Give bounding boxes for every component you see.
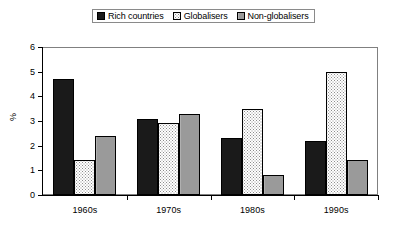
y-tick-label: 5 (30, 67, 35, 76)
bar-non-globalisers-1970s (179, 114, 200, 195)
chart-legend: Rich countries Globalisers Non-globalise… (92, 9, 315, 23)
bar-chart: Rich countries Globalisers Non-globalise… (0, 0, 397, 237)
legend-label-rich-countries: Rich countries (108, 12, 164, 21)
bar-group-1980s (211, 47, 295, 195)
bar-rich-countries-1970s (137, 119, 158, 195)
y-tick-label: 6 (30, 43, 35, 52)
y-axis-ticks: 6543210 (0, 0, 42, 237)
bar-globalisers-1980s (242, 109, 263, 195)
legend-item-non-globalisers: Non-globalisers (237, 12, 309, 21)
legend-item-globalisers: Globalisers (173, 12, 228, 21)
legend-label-non-globalisers: Non-globalisers (248, 12, 309, 21)
bar-globalisers-1990s (326, 72, 347, 195)
bars-layer (43, 47, 378, 195)
legend-label-globalisers: Globalisers (184, 12, 228, 21)
y-tick-label: 1 (30, 166, 35, 175)
bar-rich-countries-1990s (305, 141, 326, 195)
legend-swatch-non-globalisers (237, 12, 245, 20)
x-tick-label-1960s: 1960s (73, 205, 98, 215)
bar-rich-countries-1980s (221, 138, 242, 195)
legend-swatch-rich-countries (97, 12, 105, 20)
bar-non-globalisers-1960s (95, 136, 116, 195)
bar-group-1970s (127, 47, 211, 195)
bar-group-1990s (294, 47, 378, 195)
x-axis-separator (127, 195, 128, 200)
bar-group-1960s (43, 47, 127, 195)
bar-non-globalisers-1980s (263, 175, 284, 195)
x-axis-separator (211, 195, 212, 200)
y-tick-label: 3 (30, 117, 35, 126)
legend-item-rich-countries: Rich countries (97, 12, 164, 21)
x-axis-separator (294, 195, 295, 200)
legend-swatch-globalisers (173, 12, 181, 20)
y-tick-label: 2 (30, 141, 35, 150)
y-tick-label: 4 (30, 92, 35, 101)
x-tick-label-1980s: 1980s (240, 205, 265, 215)
x-axis-separator (378, 195, 379, 200)
bar-globalisers-1960s (74, 160, 95, 195)
y-tick-label: 0 (30, 191, 35, 200)
bar-non-globalisers-1990s (347, 160, 368, 195)
bar-rich-countries-1960s (53, 79, 74, 195)
x-tick-label-1990s: 1990s (324, 205, 349, 215)
x-tick-label-1970s: 1970s (156, 205, 181, 215)
bar-globalisers-1970s (158, 123, 179, 195)
